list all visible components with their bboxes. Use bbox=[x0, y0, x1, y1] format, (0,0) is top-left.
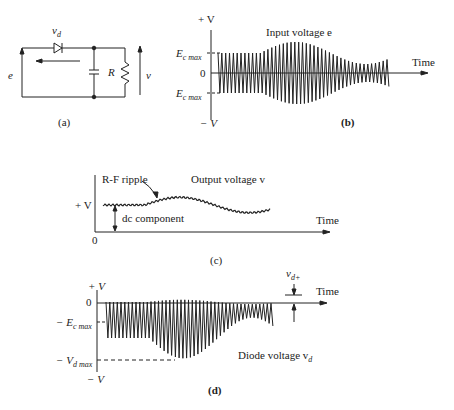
caption-d: (d) bbox=[208, 385, 221, 396]
input-label: e bbox=[8, 70, 13, 81]
diode-icon bbox=[54, 43, 62, 53]
circuit-diagram bbox=[20, 43, 142, 99]
diode-voltage-label: vd bbox=[52, 25, 61, 39]
time-label-d: Time bbox=[316, 286, 339, 297]
output-voltage-title: Output voltage v bbox=[191, 174, 265, 185]
diode-voltage-title: Diode voltage vd bbox=[238, 350, 312, 364]
caption-a: (a) bbox=[58, 117, 70, 128]
output-label: v bbox=[146, 70, 151, 81]
input-voltage-plot bbox=[207, 30, 428, 120]
zero-label-c: 0 bbox=[92, 235, 98, 246]
minus-v-label-d: − V bbox=[87, 374, 104, 385]
vd-plus-label: vd+ bbox=[286, 268, 300, 282]
input-voltage-title: Input voltage e bbox=[266, 27, 332, 38]
zero-label-d: 0 bbox=[86, 297, 92, 308]
dc-component-label: dc component bbox=[122, 213, 184, 224]
ec-max-top-label: Ec max bbox=[176, 48, 202, 62]
vd-max-label: − Vd max bbox=[56, 355, 92, 369]
time-label-b: Time bbox=[412, 57, 435, 68]
resistor-label: R bbox=[108, 67, 115, 78]
plus-v-label: + V bbox=[198, 14, 215, 25]
plus-v-label-c: + V bbox=[75, 200, 92, 211]
zero-label-b: 0 bbox=[200, 68, 206, 79]
minus-v-label: − V bbox=[200, 118, 217, 129]
caption-b: (b) bbox=[341, 117, 354, 128]
plus-v-label-d: + V bbox=[88, 281, 105, 292]
ec-max-label-d: − Ec max bbox=[56, 317, 92, 331]
ec-max-bottom-label: Ec max bbox=[176, 88, 202, 102]
time-label-c: Time bbox=[316, 215, 339, 226]
figure-canvas bbox=[0, 0, 454, 410]
resistor-icon bbox=[121, 62, 129, 84]
caption-c: (c) bbox=[210, 255, 222, 266]
rf-ripple-label: R-F ripple bbox=[102, 174, 148, 185]
